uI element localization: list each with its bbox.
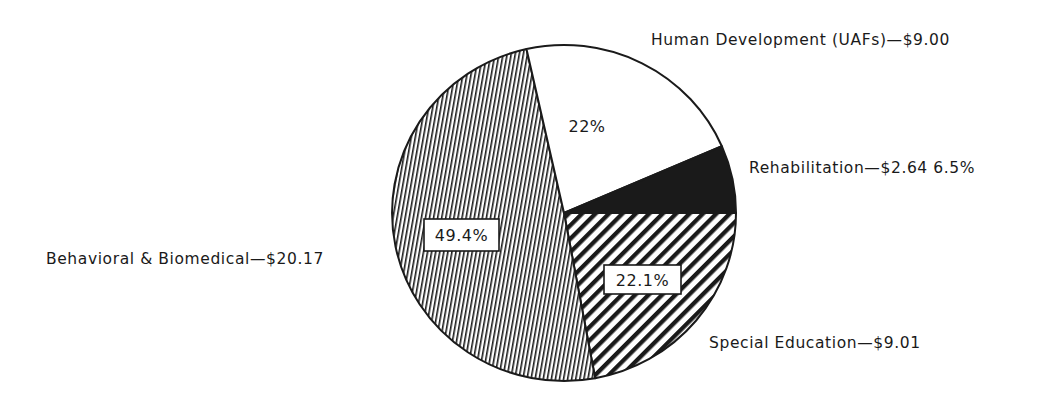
pct-label-special-ed: 22.1% <box>616 271 669 290</box>
slice-label-behavioral: Behavioral & Biomedical—$20.17 <box>46 252 324 268</box>
slice-label-special-ed: Special Education—$9.01 <box>709 336 921 352</box>
pct-label-behavioral: 49.4% <box>435 226 488 245</box>
slice-label-human-dev: Human Development (UAFs)—$9.00 <box>651 33 950 49</box>
pct-box-behavioral: 49.4% <box>424 219 499 251</box>
pct-box-special-ed: 22.1% <box>604 265 681 294</box>
pct-label-human-dev: 22% <box>568 117 605 136</box>
slice-label-rehab: Rehabilitation—$2.64 6.5% <box>749 161 975 177</box>
pie-slices <box>392 45 736 381</box>
pie-chart: 22% 49.4% 22.1% <box>0 0 1050 417</box>
